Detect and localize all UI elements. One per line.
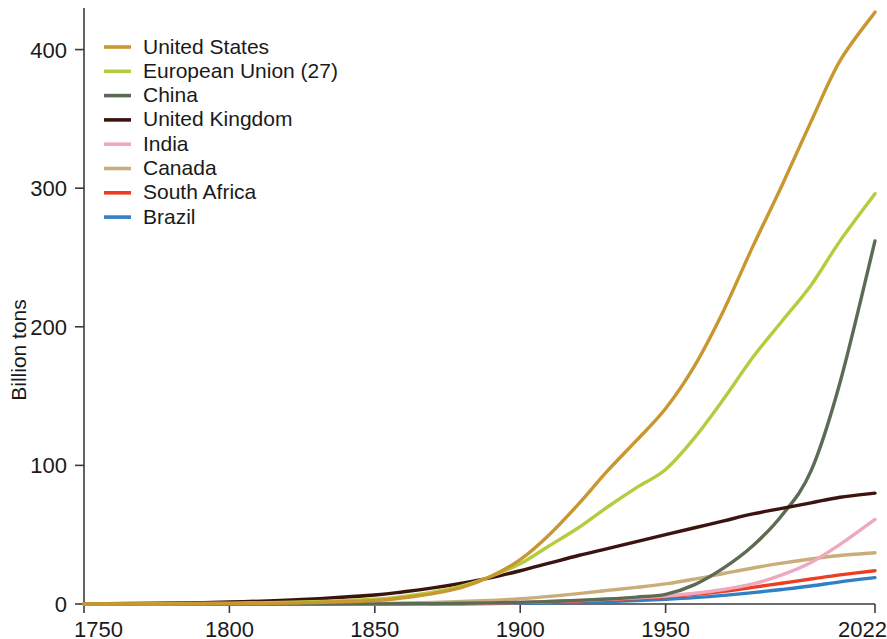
chart-canvas: 0100200300400 175018001850190019502022 B… — [0, 0, 887, 639]
x-tick-label: 2022 — [838, 617, 887, 639]
y-tick-label: 0 — [55, 592, 67, 617]
series-line-united-states — [84, 12, 875, 604]
x-tick-label: 1950 — [641, 617, 690, 639]
series-line-china — [84, 241, 875, 604]
series-line-south-africa — [84, 571, 875, 604]
legend-label-canada[interactable]: Canada — [143, 156, 217, 179]
chart-legend: United StatesEuropean Union (27)ChinaUni… — [104, 35, 338, 228]
legend-label-united-states[interactable]: United States — [143, 35, 269, 58]
x-tick-label: 1750 — [74, 617, 123, 639]
legend-label-brazil[interactable]: Brazil — [143, 205, 196, 228]
legend-label-european-union-27[interactable]: European Union (27) — [143, 59, 338, 82]
x-axis-ticks: 175018001850190019502022 — [74, 604, 887, 639]
y-tick-label: 400 — [30, 38, 67, 63]
x-tick-label: 1800 — [205, 617, 254, 639]
legend-label-united-kingdom[interactable]: United Kingdom — [143, 107, 292, 130]
series-lines — [84, 12, 875, 604]
x-tick-label: 1900 — [496, 617, 545, 639]
y-tick-label: 200 — [30, 315, 67, 340]
legend-label-south-africa[interactable]: South Africa — [143, 180, 257, 203]
y-tick-label: 300 — [30, 176, 67, 201]
y-axis-ticks: 0100200300400 — [30, 38, 84, 617]
cumulative-emissions-line-chart: 0100200300400 175018001850190019502022 B… — [0, 0, 887, 639]
legend-label-india[interactable]: India — [143, 132, 189, 155]
x-tick-label: 1850 — [350, 617, 399, 639]
y-tick-label: 100 — [30, 453, 67, 478]
y-axis-title: Billion tons — [7, 299, 30, 401]
legend-label-china[interactable]: China — [143, 83, 198, 106]
